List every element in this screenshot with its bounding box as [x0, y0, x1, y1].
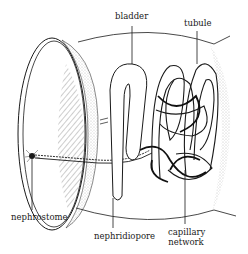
bladder [110, 64, 147, 200]
capillary-network [140, 96, 206, 182]
segment-top-outline [78, 32, 230, 44]
label-tubule: tubule [184, 18, 212, 28]
label-nephridiopore: nephridiopore [94, 231, 155, 241]
label-capillary-line2: network [168, 237, 204, 247]
label-nephrostome: nephrostome [11, 212, 68, 222]
label-capillary-line1: capillary [168, 227, 204, 237]
label-capillary-network: capillary network [168, 227, 204, 247]
segment-bottom-outline [76, 208, 236, 220]
nephridium-diagram: bladder tubule nephrostome nephridiopore… [0, 0, 248, 254]
label-bladder: bladder [115, 11, 148, 21]
nephrostome-cilia [25, 150, 40, 162]
tubule-coils [152, 64, 218, 180]
